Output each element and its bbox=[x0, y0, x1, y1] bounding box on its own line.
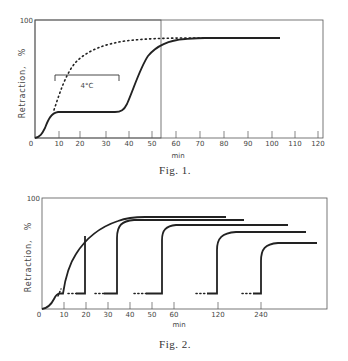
fig2-x-axis-label: min bbox=[172, 321, 185, 329]
svg-text:0: 0 bbox=[29, 140, 33, 148]
fig2-dotted-plateaus bbox=[58, 289, 253, 296]
svg-text:40: 40 bbox=[126, 311, 135, 319]
fig1-caption: Fig. 1. bbox=[159, 164, 191, 176]
svg-text:120: 120 bbox=[211, 311, 224, 319]
figure-1: 100 % Retraction, 0 10 20 30 40 50 60 7 bbox=[18, 17, 325, 176]
fig1-dotted-curve bbox=[54, 38, 210, 110]
svg-text:40: 40 bbox=[125, 140, 134, 148]
fig2-y-top-label: 100 bbox=[27, 195, 40, 203]
fig1-x-axis-label: min bbox=[171, 152, 184, 160]
svg-text:240: 240 bbox=[254, 311, 267, 319]
svg-text:10: 10 bbox=[60, 311, 69, 319]
fig2-curve-rewarm-240 bbox=[253, 243, 317, 294]
svg-text:60: 60 bbox=[172, 140, 181, 148]
fig2-y-pct: % bbox=[24, 222, 33, 230]
svg-text:90: 90 bbox=[244, 140, 253, 148]
fig1-y-top-label: 100 bbox=[20, 17, 33, 25]
svg-text:0: 0 bbox=[37, 311, 41, 319]
fig1-x-tick-labels: 0 10 20 30 40 50 60 70 80 90 100 110 120 bbox=[29, 140, 325, 148]
fig2-curve-rewarm-120 bbox=[207, 232, 306, 294]
fig1-y-pct: % bbox=[18, 48, 27, 56]
svg-text:100: 100 bbox=[265, 140, 278, 148]
fig1-solid-curve bbox=[35, 38, 280, 138]
svg-text:120: 120 bbox=[311, 140, 324, 148]
svg-text:30: 30 bbox=[102, 140, 111, 148]
fig2-x-ticks bbox=[64, 302, 261, 309]
fig1-y-axis-label: Retraction, bbox=[18, 66, 27, 119]
cold-period-label: 4°C bbox=[81, 82, 94, 90]
svg-text:50: 50 bbox=[148, 140, 157, 148]
fig2-x-tick-labels: 0 10 20 30 40 50 60 120 240 bbox=[37, 311, 268, 319]
svg-text:60: 60 bbox=[170, 311, 179, 319]
svg-text:30: 30 bbox=[104, 311, 113, 319]
svg-text:70: 70 bbox=[196, 140, 205, 148]
svg-text:80: 80 bbox=[220, 140, 229, 148]
fig1-x-ticks bbox=[59, 131, 318, 138]
svg-text:50: 50 bbox=[148, 311, 157, 319]
figure-2: 100 % Retraction, 0 10 20 30 40 50 60 12… bbox=[24, 195, 327, 350]
svg-text:20: 20 bbox=[76, 140, 85, 148]
fig2-y-axis-label: Retraction, bbox=[24, 240, 33, 293]
figure-canvas: 100 % Retraction, 0 10 20 30 40 50 60 7 bbox=[0, 0, 348, 361]
fig2-caption: Fig. 2. bbox=[159, 338, 191, 350]
fig1-frame-left bbox=[35, 20, 161, 138]
svg-text:10: 10 bbox=[55, 140, 64, 148]
svg-text:110: 110 bbox=[288, 140, 301, 148]
fig2-curve-rewarm-35 bbox=[104, 220, 244, 294]
svg-text:20: 20 bbox=[82, 311, 91, 319]
fig2-curve-continuous bbox=[42, 217, 226, 309]
